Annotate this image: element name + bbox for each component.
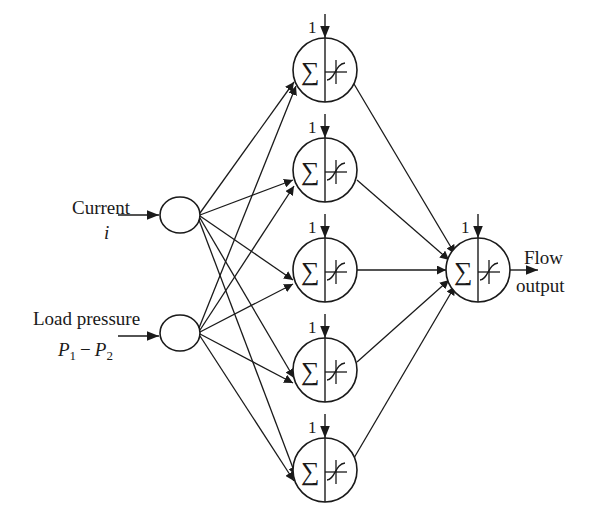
hidden-neuron-2: 1 ∑: [293, 114, 357, 202]
hidden-neuron-1: 1 ∑: [293, 14, 357, 102]
input-load-pressure-symbol: P1−P2: [57, 339, 113, 363]
sum-icon: ∑: [301, 57, 320, 86]
hidden-neuron-3: 1 ∑: [293, 214, 357, 302]
neural-network-diagram: Current i Load pressure P1−P2 1 ∑: [0, 0, 593, 529]
sum-icon: ∑: [301, 357, 320, 386]
bias-label: 1: [308, 318, 317, 337]
bias-label: 1: [308, 418, 317, 437]
hidden-neuron-4: 1 ∑: [293, 314, 357, 402]
input-load-pressure: Load pressure P1−P2: [33, 308, 159, 363]
bias-label: 1: [308, 118, 317, 137]
bias-label: 1: [308, 18, 317, 37]
output-label-line2: output: [516, 275, 565, 296]
input-load-pressure-label: Load pressure: [33, 308, 140, 329]
input-node-load-pressure: [160, 315, 200, 351]
input-current-symbol: i: [104, 222, 109, 243]
sum-icon: ∑: [454, 257, 473, 286]
sum-icon: ∑: [301, 157, 320, 186]
hidden-neuron-5: 1 ∑: [293, 414, 357, 502]
output-label-line1: Flow: [524, 247, 563, 268]
input-node-current: [160, 197, 200, 233]
input-hidden-connections: [199, 82, 296, 481]
bias-label: 1: [308, 218, 317, 237]
sum-icon: ∑: [301, 257, 320, 286]
sum-icon: ∑: [301, 457, 320, 486]
bias-label: 1: [461, 218, 470, 237]
hidden-output-connections: [354, 84, 455, 458]
input-current: Current i: [72, 197, 159, 243]
